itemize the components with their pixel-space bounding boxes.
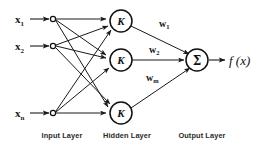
caption-hidden-layer: Hidden Layer: [103, 131, 151, 140]
input-entry-arrows: [30, 19, 49, 113]
input-label-x2: x2: [15, 40, 25, 55]
layer-captions: Input Layer Hidden Layer Output Layer: [42, 131, 226, 140]
hidden-node-k2-glyph: K: [116, 54, 125, 66]
input-label-xn: xn: [15, 107, 25, 122]
hidden-node-k2[interactable]: K: [110, 49, 132, 71]
input-node-xn[interactable]: [50, 110, 55, 115]
weight-labels: w1 w2 wm: [146, 18, 169, 84]
input-nodes: [50, 16, 55, 115]
weight-label-w1: w1: [159, 18, 169, 30]
caption-input-layer: Input Layer: [42, 131, 83, 140]
input-to-hidden-edges: [56, 19, 111, 113]
edge-xn-k2: [56, 68, 109, 112]
input-node-x2[interactable]: [50, 43, 55, 48]
neural-network-diagram-page: x1 x2 xn K K K: [0, 0, 271, 150]
edge-k1-sum: [131, 26, 189, 54]
edge-x2-k1: [56, 26, 108, 45]
input-labels: x1 x2 xn: [15, 13, 25, 122]
weight-label-wm: wm: [146, 72, 159, 84]
edge-x2-k3: [56, 48, 110, 104]
hidden-node-k1-glyph: K: [116, 15, 125, 27]
edge-k3-sum: [131, 68, 190, 108]
hidden-node-k3[interactable]: K: [110, 102, 132, 124]
hidden-nodes: K K K: [110, 10, 132, 124]
hidden-node-k1[interactable]: K: [110, 10, 132, 32]
output-node-sum[interactable]: Σ: [186, 49, 208, 71]
hidden-node-k3-glyph: K: [116, 107, 125, 119]
output-function-label: f (x): [229, 53, 250, 68]
edge-x1-k2: [56, 20, 106, 55]
input-label-x1: x1: [15, 13, 25, 28]
hidden-to-output-edges: [131, 26, 190, 108]
input-node-x1[interactable]: [50, 16, 55, 21]
network-diagram-canvas: x1 x2 xn K K K: [0, 0, 271, 150]
caption-output-layer: Output Layer: [178, 131, 225, 140]
weight-label-w2: w2: [149, 44, 159, 56]
output-node-sigma-glyph: Σ: [193, 54, 201, 68]
